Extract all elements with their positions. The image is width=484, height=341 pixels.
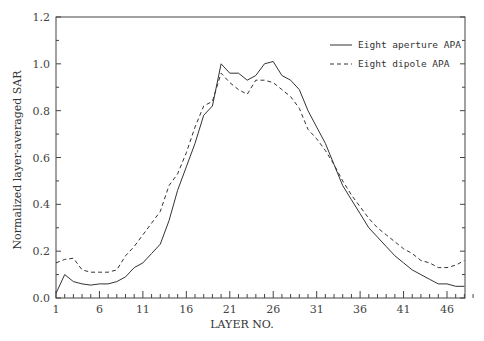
y-axis-title: Normalized layer-averaged SAR — [11, 70, 24, 250]
x-tick-label: 26 — [266, 303, 280, 316]
sar-line-chart: 0.00.20.40.60.81.01.2 161116212631364146… — [0, 0, 484, 341]
y-tick-label: 1.0 — [33, 58, 51, 71]
x-tick-label: 21 — [223, 303, 237, 316]
y-axis: 0.00.20.40.60.81.01.2 — [33, 11, 466, 305]
x-tick-label: 11 — [136, 303, 150, 316]
x-tick-label: 6 — [96, 303, 103, 316]
x-axis: 161116212631364146 — [53, 291, 474, 316]
x-axis-title: LAYER NO. — [210, 318, 273, 331]
legend-label-dipole: Eight dipole APA — [358, 58, 450, 69]
y-tick-label: 0.6 — [33, 152, 51, 165]
x-tick-label: 1 — [53, 303, 60, 316]
series-dipole-line — [56, 73, 464, 272]
x-tick-label: 36 — [353, 303, 367, 316]
x-tick-label: 46 — [440, 303, 454, 316]
series-aperture-line — [56, 62, 464, 294]
y-tick-label: 0.0 — [33, 292, 51, 305]
plot-series — [56, 62, 464, 294]
y-tick-label: 0.4 — [33, 198, 51, 211]
y-tick-label: 1.2 — [33, 11, 51, 24]
x-tick-label: 16 — [179, 303, 193, 316]
legend-label-aperture: Eight aperture APA — [358, 39, 461, 50]
x-tick-label: 41 — [397, 303, 411, 316]
y-tick-label: 0.2 — [33, 245, 51, 258]
legend: Eight aperture APA Eight dipole APA — [330, 39, 461, 69]
y-tick-label: 0.8 — [33, 105, 51, 118]
x-tick-label: 31 — [310, 303, 324, 316]
